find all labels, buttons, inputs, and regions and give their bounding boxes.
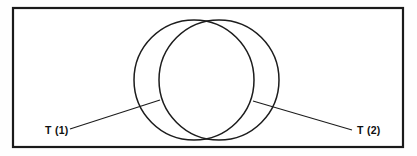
label-t1: T (1) [45,124,69,136]
outer-border-rect [13,8,403,147]
venn-diagram-svg: T (1) T (2) [0,0,417,156]
label-t2: T (2) [357,124,381,136]
figure-container: T (1) T (2) [0,0,417,156]
